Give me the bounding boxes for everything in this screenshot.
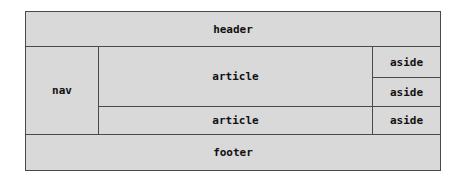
footer-region: footer [25, 134, 441, 171]
article-region-1: article [98, 46, 373, 107]
aside-label: aside [390, 114, 423, 127]
article-label: article [212, 70, 258, 83]
nav-label: nav [52, 84, 72, 97]
aside-label: aside [390, 56, 423, 69]
aside-region-3: aside [372, 106, 441, 135]
aside-region-2: aside [372, 77, 441, 107]
footer-label: footer [213, 146, 253, 159]
header-region: header [25, 11, 441, 47]
article-region-2: article [98, 106, 373, 135]
article-label: article [212, 114, 258, 127]
header-label: header [213, 23, 253, 36]
aside-label: aside [390, 86, 423, 99]
nav-region: nav [25, 46, 99, 135]
aside-region-1: aside [372, 46, 441, 78]
